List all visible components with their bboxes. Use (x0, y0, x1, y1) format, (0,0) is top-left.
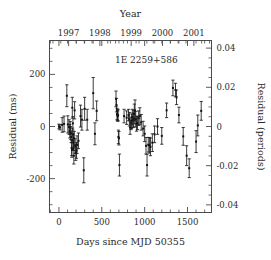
year-tick-label-1: 1998 (89, 28, 111, 38)
data-point (177, 107, 180, 123)
data-point (171, 80, 174, 96)
data-point (125, 111, 128, 125)
year-tick-label-4: 2001 (183, 28, 205, 38)
top-axis-ticks: 19971998199920002001 (53, 28, 210, 47)
y2-tick-label-1: -0.02 (217, 161, 239, 171)
data-point (182, 128, 185, 146)
data-point (95, 101, 98, 121)
x-axis-title: Days since MJD 50355 (76, 236, 185, 247)
data-point (196, 115, 199, 136)
data-point (93, 123, 96, 145)
data-point (160, 128, 163, 145)
y2-tick-label-4: 0.04 (217, 43, 236, 53)
data-point (71, 97, 74, 118)
year-tick-label-3: 2000 (152, 28, 174, 38)
data-points-group (57, 78, 202, 183)
data-point (82, 158, 85, 183)
source-annotation: 1E 2259+586 (115, 55, 178, 65)
data-point (153, 126, 156, 143)
x-tick-label-3: 1500 (177, 217, 199, 227)
y2-tick-label-2: 0 (217, 122, 222, 132)
y2-tick-label-3: 0.02 (217, 82, 236, 92)
data-point (62, 116, 65, 132)
data-point (117, 131, 120, 145)
data-point (118, 154, 121, 176)
y-axis-ticks: -2000200 (26, 48, 55, 204)
residual-scatter-chart: 050010001500 -2000200 -0.04-0.0200.020.0… (0, 0, 271, 260)
y-tick-label-2: 200 (29, 69, 45, 79)
y-tick-label-0: -200 (26, 174, 45, 184)
data-point (83, 97, 86, 120)
figure-panel: 050010001500 -2000200 -0.04-0.0200.020.0… (0, 0, 271, 260)
y2-tick-label-0: -0.04 (217, 200, 239, 210)
year-tick-label-2: 1999 (120, 28, 142, 38)
y2-axis-ticks: -0.04-0.0200.020.04 (206, 43, 238, 210)
data-point (65, 85, 68, 107)
data-point (165, 103, 168, 118)
data-point (122, 109, 125, 123)
x-tick-label-0: 0 (56, 217, 61, 227)
data-point (194, 131, 197, 153)
data-point (188, 159, 191, 178)
x-tick-label-1: 500 (94, 217, 110, 227)
plot-frame (50, 41, 212, 213)
data-point (145, 154, 148, 176)
data-point (156, 119, 159, 135)
data-point (200, 101, 203, 120)
data-point (117, 130, 120, 144)
top-axis-title: Year (119, 8, 142, 19)
y-tick-label-1: 0 (40, 122, 45, 132)
y-axis-title: Residual (ms) (7, 94, 18, 160)
x-tick-label-2: 1000 (134, 217, 156, 227)
year-tick-label-0: 1997 (58, 28, 80, 38)
data-point (92, 78, 95, 109)
data-point (185, 146, 188, 166)
y2-axis-title: Residual (periods) (256, 83, 267, 171)
data-point (86, 109, 89, 130)
